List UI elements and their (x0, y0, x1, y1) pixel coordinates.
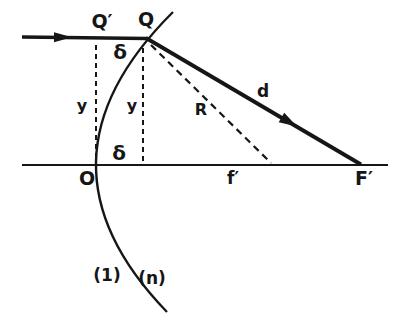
incident-ray-arrowhead-icon (54, 32, 72, 42)
ray-diagram-canvas: Q′ Q δ y y R d δ O f′ F′ (1) (n) (0, 0, 402, 331)
label-delta-lower: δ (112, 141, 126, 165)
label-ray-distance: d (257, 81, 269, 101)
incident-ray (22, 37, 147, 39)
label-medium-n: (n) (138, 268, 166, 288)
label-vertex-o: O (79, 167, 95, 189)
label-focal-point: F′ (355, 167, 373, 189)
label-focal-distance: f′ (227, 168, 239, 188)
label-delta-upper: δ (113, 40, 127, 64)
optics-figure: Q′ Q δ y y R d δ O f′ F′ (1) (n) (0, 0, 402, 331)
label-y-right: y (127, 96, 138, 115)
label-y-left: y (77, 96, 88, 115)
label-q-prime: Q′ (91, 10, 112, 32)
label-radius: R (195, 100, 207, 119)
label-q: Q (138, 8, 154, 30)
label-medium-1: (1) (93, 265, 120, 285)
refracted-ray (146, 38, 361, 165)
radius-dashline (151, 45, 271, 163)
